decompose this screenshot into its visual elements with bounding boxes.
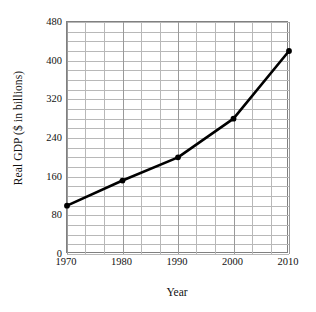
- x-axis-tick-labels: 19701980199020002010: [66, 256, 288, 274]
- y-axis-tick-labels: 080160240320400480: [22, 21, 62, 253]
- y-tick-label: 320: [26, 93, 62, 104]
- y-tick-label: 480: [26, 16, 62, 27]
- gdp-line-chart: Real GDP ($ in billions) 080160240320400…: [0, 0, 316, 312]
- data-series-line: [67, 22, 289, 254]
- x-tick-label: 1980: [100, 256, 144, 267]
- y-tick-label: 240: [26, 132, 62, 143]
- data-point-marker: [231, 116, 237, 122]
- series-polyline: [67, 51, 289, 206]
- x-tick-label: 2010: [266, 256, 310, 267]
- data-point-marker: [175, 154, 181, 160]
- plot-area: [66, 21, 288, 253]
- data-point-marker: [286, 48, 292, 54]
- y-tick-label: 160: [26, 170, 62, 181]
- data-point-marker: [64, 203, 70, 209]
- data-point-marker: [120, 178, 126, 184]
- x-axis-title: Year: [66, 286, 288, 298]
- x-tick-label: 1990: [155, 256, 199, 267]
- y-tick-label: 80: [26, 209, 62, 220]
- x-tick-label: 2000: [211, 256, 255, 267]
- x-tick-label: 1970: [44, 256, 88, 267]
- y-tick-label: 400: [26, 54, 62, 65]
